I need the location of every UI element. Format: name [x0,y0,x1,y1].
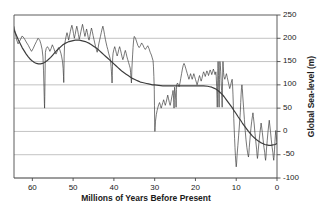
x-tick-label: 40 [105,184,123,192]
y-axis [277,15,281,178]
x-tick-label: 60 [23,184,41,192]
y-tick-label: -100 [283,174,299,182]
x-tick-label: 20 [186,184,204,192]
x-axis-title: Millions of Years Before Present [0,193,292,203]
y-tick-label: 50 [283,104,292,112]
x-tick-label: 50 [64,184,82,192]
y-tick-label: 100 [283,80,296,88]
y-tick-label: 150 [283,57,296,65]
x-tick-label: 10 [227,184,245,192]
y-tick-label: 0 [283,127,287,135]
x-tick-label: 30 [146,184,164,192]
y-tick-label: 250 [283,11,296,19]
y-axis-title: Global Sea-level (m) [306,56,316,137]
x-tick-label: 0 [268,184,286,192]
y-tick-label: 200 [283,34,296,42]
y-tick-label: -50 [283,150,295,158]
sea-level-chart: Global Sea-level (m) 250200150100500-50-… [0,0,332,212]
